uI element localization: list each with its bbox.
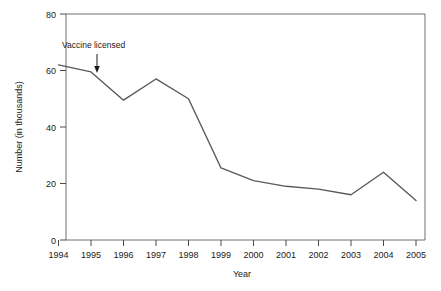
x-tick-label-1999: 1999 [211, 250, 231, 260]
y-tick-label-60: 60 [46, 66, 56, 76]
x-tick-label-2003: 2003 [341, 250, 361, 260]
data-series-line [59, 65, 417, 201]
x-tick-label-2005: 2005 [406, 250, 426, 260]
y-axis-title: Number (in thousands) [14, 81, 24, 173]
x-axis-ticks [59, 240, 417, 246]
x-tick-label-1994: 1994 [48, 250, 68, 260]
x-tick-label-1996: 1996 [113, 250, 133, 260]
annotation-arrow-icon [94, 54, 100, 73]
x-tick-label-2002: 2002 [308, 250, 328, 260]
line-chart: 0 20 40 60 80 1994 1995 1996 1997 1998 1… [0, 0, 441, 291]
chart-container: 0 20 40 60 80 1994 1995 1996 1997 1998 1… [0, 0, 441, 291]
y-tick-label-0: 0 [51, 236, 56, 246]
x-tick-label-1997: 1997 [146, 250, 166, 260]
x-tick-label-2000: 2000 [243, 250, 263, 260]
y-tick-label-80: 80 [46, 10, 56, 20]
x-tick-label-2001: 2001 [276, 250, 296, 260]
x-axis-title: Year [233, 269, 251, 279]
annotation-label-vaccine-licensed: Vaccine licensed [62, 40, 125, 50]
x-tick-label-1998: 1998 [178, 250, 198, 260]
x-tick-label-2004: 2004 [373, 250, 393, 260]
x-tick-label-1995: 1995 [81, 250, 101, 260]
y-tick-label-40: 40 [46, 123, 56, 133]
y-tick-label-20: 20 [46, 179, 56, 189]
